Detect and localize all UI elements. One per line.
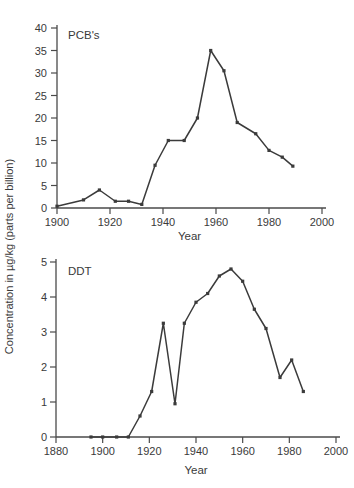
- data-point: [89, 435, 92, 438]
- data-point: [167, 139, 170, 142]
- data-point: [138, 414, 141, 417]
- data-point: [281, 156, 284, 159]
- data-point: [290, 358, 293, 361]
- x-axis-tick-label: 1900: [45, 216, 69, 228]
- y-axis-tick-label: 5: [41, 256, 47, 268]
- data-point: [241, 280, 244, 283]
- data-point: [194, 301, 197, 304]
- x-axis-tick-label: 1920: [98, 216, 122, 228]
- data-line: [91, 269, 303, 437]
- y-axis-tick-label: 15: [35, 135, 47, 147]
- data-point: [127, 200, 130, 203]
- x-axis-tick-label: 1960: [204, 216, 228, 228]
- y-axis-tick-label: 30: [35, 67, 47, 79]
- y-axis-tick-label: 3: [41, 326, 47, 338]
- x-axis-tick-label: 2000: [310, 216, 334, 228]
- data-point: [196, 116, 199, 119]
- y-axis-tick-label: 20: [35, 112, 47, 124]
- data-point: [209, 49, 212, 52]
- data-point: [162, 322, 165, 325]
- figure-pollutant-concentrations: Concentration in µg/kg (parts per billio…: [0, 0, 354, 488]
- data-point: [302, 390, 305, 393]
- data-point: [173, 402, 176, 405]
- x-axis-tick-label: 1920: [137, 445, 161, 457]
- data-point: [278, 376, 281, 379]
- y-axis-tick-label: 4: [41, 291, 47, 303]
- series-label: DDT: [68, 265, 92, 277]
- x-axis-tick-label: 1880: [44, 445, 68, 457]
- y-axis-tick-label: 0: [41, 431, 47, 443]
- y-axis-tick-label: 5: [41, 180, 47, 192]
- ddt-line-chart: 0123451880190019201940196019802000YearDD…: [0, 244, 354, 488]
- data-point: [264, 327, 267, 330]
- data-point: [183, 322, 186, 325]
- data-point: [55, 205, 58, 208]
- data-point: [183, 139, 186, 142]
- pcb-line-chart: 0510152025303540190019201940196019802000…: [0, 0, 354, 244]
- y-axis-tick-label: 1: [41, 396, 47, 408]
- x-axis-tick-label: 1960: [230, 445, 254, 457]
- y-axis-tick-label: 35: [35, 45, 47, 57]
- x-axis-title: Year: [178, 230, 201, 242]
- data-point: [140, 203, 143, 206]
- data-point: [218, 274, 221, 277]
- x-axis-tick-label: 1940: [184, 445, 208, 457]
- y-axis-tick-label: 0: [41, 202, 47, 214]
- data-point: [222, 69, 225, 72]
- data-point: [127, 435, 130, 438]
- data-point: [254, 132, 257, 135]
- data-point: [267, 149, 270, 152]
- data-point: [291, 165, 294, 168]
- data-line: [57, 51, 293, 207]
- y-axis-tick-label: 25: [35, 90, 47, 102]
- series-label: PCB's: [68, 29, 100, 41]
- x-axis-tick-label: 2000: [324, 445, 348, 457]
- data-point: [115, 435, 118, 438]
- data-point: [153, 164, 156, 167]
- data-point: [150, 390, 153, 393]
- data-point: [253, 308, 256, 311]
- data-point: [98, 188, 101, 191]
- data-point: [114, 200, 117, 203]
- y-axis-tick-label: 40: [35, 22, 47, 34]
- x-axis-title: Year: [184, 464, 207, 476]
- y-axis-tick-label: 10: [35, 157, 47, 169]
- data-point: [82, 198, 85, 201]
- x-axis-tick-label: 1940: [151, 216, 175, 228]
- data-point: [206, 292, 209, 295]
- x-axis-tick-label: 1980: [277, 445, 301, 457]
- data-point: [101, 435, 104, 438]
- data-point: [229, 267, 232, 270]
- y-axis-tick-label: 2: [41, 361, 47, 373]
- x-axis-tick-label: 1900: [90, 445, 114, 457]
- data-point: [236, 121, 239, 124]
- x-axis-tick-label: 1980: [257, 216, 281, 228]
